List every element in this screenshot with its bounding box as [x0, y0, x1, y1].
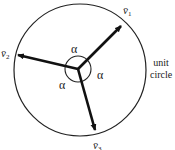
- vector-v2-arrow: [18, 55, 78, 69]
- unit-circle-diagram: [0, 0, 175, 150]
- angle-alpha-left: α: [59, 79, 65, 91]
- vector-v1-label: v̄1: [123, 5, 131, 18]
- caption-line-2: circle: [150, 69, 172, 81]
- vector-subscript: 2: [6, 53, 10, 61]
- vector-v2-label: v̄2: [1, 48, 9, 61]
- vector-subscript: 1: [128, 10, 132, 18]
- angle-alpha-right: α: [97, 69, 103, 81]
- vector-subscript: 3: [98, 145, 102, 150]
- angle-alpha-top: α: [71, 43, 77, 55]
- unit-circle: [14, 4, 146, 136]
- vector-v3-label: v̄3: [93, 140, 101, 150]
- unit-circle-caption: unit circle: [150, 57, 172, 81]
- vector-v1-arrow: [78, 26, 121, 69]
- caption-line-1: unit: [150, 57, 172, 69]
